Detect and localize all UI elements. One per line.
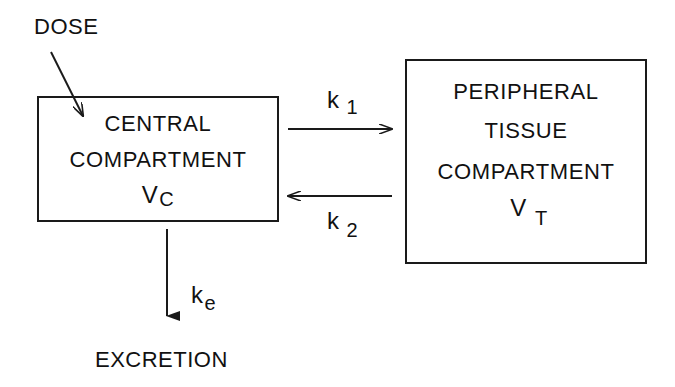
peripheral-compartment-box: PERIPHERAL TISSUE COMPARTMENT VT xyxy=(405,59,647,264)
peripheral-volume-symbol: V xyxy=(510,194,527,221)
peripheral-line1: PERIPHERAL xyxy=(407,79,645,105)
k2-label: k2 xyxy=(327,207,358,235)
ke-label: ke xyxy=(191,281,216,309)
k1-symbol: k xyxy=(327,86,340,113)
peripheral-line3: COMPARTMENT xyxy=(407,159,645,185)
k2-symbol: k xyxy=(327,207,340,234)
excretion-label: EXCRETION xyxy=(95,347,228,373)
peripheral-volume: VT xyxy=(407,194,645,222)
ke-subscript: e xyxy=(205,292,217,314)
peripheral-line2: TISSUE xyxy=(407,118,645,144)
central-volume-subscript: C xyxy=(159,188,174,210)
central-compartment-box: CENTRAL COMPARTMENT VC xyxy=(37,96,279,222)
ke-symbol: k xyxy=(191,281,204,308)
peripheral-volume-subscript: T xyxy=(535,207,548,229)
central-line1: CENTRAL xyxy=(39,111,277,137)
k2-subscript: 2 xyxy=(347,219,359,241)
k1-label: k1 xyxy=(327,86,358,114)
central-volume-symbol: V xyxy=(142,181,159,208)
central-line2: COMPARTMENT xyxy=(39,147,277,173)
k1-subscript: 1 xyxy=(347,96,359,118)
central-volume: VC xyxy=(39,181,277,209)
dose-label: DOSE xyxy=(34,14,98,40)
